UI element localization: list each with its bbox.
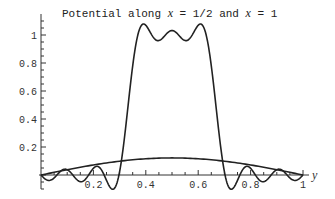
- y-axis: [41, 14, 46, 189]
- x-tick-label: 1: [300, 180, 306, 191]
- y-tick-label: 0.8: [19, 59, 37, 70]
- x-axis-label: y: [311, 168, 318, 182]
- chart: Potential along x = 1/2 and x = 1 0.20.2…: [0, 0, 335, 199]
- x-tick-label: 0.4: [137, 180, 155, 191]
- y-tick-label: 0.4: [19, 115, 37, 126]
- x-axis: [39, 170, 309, 175]
- x-tick-label: 0.6: [189, 180, 207, 191]
- y-tick-label: 0.6: [19, 87, 37, 98]
- chart-title: Potential along x = 1/2 and x = 1: [62, 6, 278, 20]
- x-tick-label: 0.2: [84, 180, 102, 191]
- y-tick-label: 0.2: [19, 143, 37, 154]
- x-tick-label: 0.8: [242, 180, 260, 191]
- series-square-pulse: [41, 24, 303, 189]
- y-tick-label: 1: [31, 31, 37, 42]
